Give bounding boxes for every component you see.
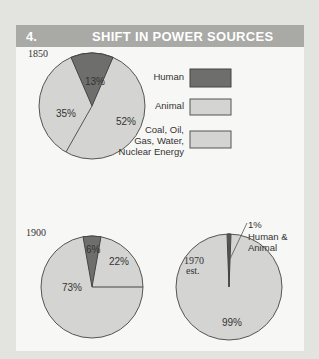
pie-1970-callout-line3: Animal <box>248 242 277 253</box>
legend-fuel-label-1: Coal, Oil, <box>145 124 184 135</box>
legend-human-label: Human <box>153 71 184 82</box>
legend-animal-label: Animal <box>155 100 184 111</box>
legend-human-swatch <box>190 69 231 87</box>
pie-1970-callout-line2: Human & <box>248 231 288 242</box>
pie-1850: 1850 13% 52% 35% <box>28 48 145 159</box>
pie-1900: 1900 6% 22% 73% <box>26 227 143 338</box>
pie-1850-human-label: 13% <box>85 76 105 87</box>
pie-1970-callout-pct: 1% <box>248 219 262 230</box>
pie-1850-animal-label: 52% <box>116 116 136 127</box>
legend-fuel-label-3: Nuclear Energy <box>119 146 185 157</box>
pie-1970: 1970 est. 99% 1% Human & Animal <box>176 219 288 340</box>
legend-fuel-label-2: Gas, Water, <box>134 135 184 146</box>
pie-1900-animal-label: 22% <box>109 256 129 267</box>
pie-1850-fuel-label: 35% <box>56 108 76 119</box>
chart-panel: 4. SHIFT IN POWER SOURCES 1850 13% 52% 3… <box>16 25 304 351</box>
pie-1900-year: 1900 <box>26 227 46 238</box>
legend-animal-swatch <box>190 99 231 115</box>
pie-1850-year: 1850 <box>28 48 48 59</box>
pie-charts: 1850 13% 52% 35% Human Animal Coal, Oil,… <box>16 25 304 351</box>
pie-1900-human-label: 6% <box>86 244 101 255</box>
legend-fuel-swatch <box>190 131 231 148</box>
pie-1900-fuel-label: 73% <box>62 282 82 293</box>
pie-1970-year-sub: est. <box>186 265 200 276</box>
pie-1970-fuel-label: 99% <box>222 317 242 328</box>
